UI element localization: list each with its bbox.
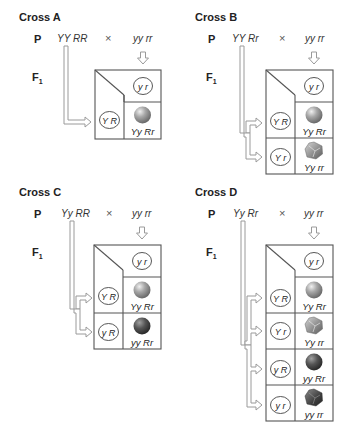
cross-d-offspring-2: Yy rr <box>304 317 325 348</box>
cross-d-gamete-row-1: Y R <box>271 290 291 307</box>
svg-text:yy rr: yy rr <box>304 409 324 420</box>
green-wrinkled-pea-icon <box>305 389 323 406</box>
cross-d-down-arrow-icon <box>309 227 320 239</box>
cross-d-offspring-1: Yy Rr <box>302 282 327 313</box>
cross-d-offspring-3: yy Rr <box>302 354 326 385</box>
svg-text:y R: y R <box>273 365 288 375</box>
cross-d-gamete-arrow-icon <box>241 221 262 410</box>
svg-text:Y R: Y R <box>273 294 288 304</box>
svg-text:yy Rr: yy Rr <box>302 373 326 384</box>
cross-d-gamete-row-3: y R <box>271 361 291 378</box>
svg-text:y r: y r <box>308 257 320 267</box>
green-round-pea-icon <box>306 354 323 371</box>
cross-d-gamete-row-2: Y r <box>271 323 291 340</box>
cross-d-gamete-header: y r <box>305 253 324 270</box>
svg-text:Yy rr: Yy rr <box>304 337 325 348</box>
yellow-wrinkled-pea-icon <box>305 317 323 334</box>
svg-text:Y r: Y r <box>275 327 287 337</box>
cross-d-punnett-square: y r Y R Y r y R y r Yy Rr Yy rr <box>0 0 343 436</box>
cross-d-gamete-row-4: y r <box>271 397 291 414</box>
svg-text:Yy Rr: Yy Rr <box>302 301 327 312</box>
yellow-round-pea-icon <box>306 282 323 299</box>
cross-d-offspring-4: yy rr <box>304 389 324 420</box>
svg-text:y r: y r <box>275 401 287 411</box>
